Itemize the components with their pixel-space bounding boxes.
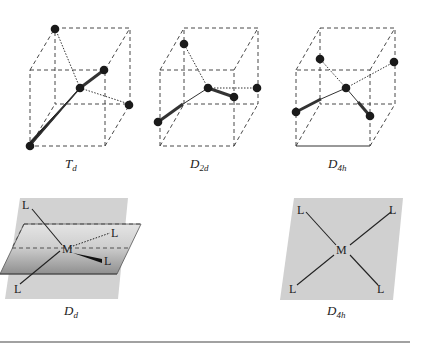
- atom: [292, 108, 301, 117]
- td-planes-diagram: L L L L M: [0, 198, 141, 299]
- bond-dotted: [55, 28, 80, 88]
- atom: [125, 101, 134, 110]
- metal-label: M: [336, 243, 347, 257]
- ligand-label: L: [389, 203, 396, 217]
- ligand-label: L: [111, 226, 118, 240]
- atom-center: [76, 84, 85, 93]
- d4h-atoms: [292, 55, 399, 121]
- bond-dotted: [184, 44, 208, 88]
- label-d4h-bottom: D4h: [326, 303, 346, 320]
- atom: [100, 66, 109, 75]
- atom: [26, 142, 35, 151]
- ligand-label: L: [104, 254, 111, 268]
- atom: [366, 112, 375, 121]
- atom: [154, 118, 163, 127]
- ligand-label: L: [289, 282, 296, 296]
- atom: [51, 25, 60, 34]
- bond-dotted: [320, 59, 346, 88]
- bond-thin: [183, 88, 208, 104]
- ligand-label: L: [377, 282, 384, 296]
- bond-dotted: [80, 88, 129, 104]
- atom: [390, 58, 399, 67]
- symmetry-figure: Td D2d: [0, 0, 422, 355]
- bond-wedge: [80, 70, 104, 88]
- ligand-label: L: [22, 198, 29, 212]
- atom-center: [342, 84, 351, 93]
- atom: [253, 84, 262, 93]
- ligand-label: L: [297, 203, 304, 217]
- label-td-bottom: Dd: [63, 303, 78, 320]
- atom-center: [204, 84, 213, 93]
- label-d4h-top: D4h: [327, 156, 347, 173]
- atom: [180, 40, 189, 49]
- ligand-label: L: [14, 282, 21, 296]
- atom: [230, 93, 239, 102]
- atom: [316, 55, 325, 64]
- metal-label: M: [62, 242, 73, 256]
- label-d2d: D2d: [189, 156, 209, 173]
- d4h-plane-diagram: L L L L M: [280, 198, 403, 300]
- label-td-top: Td: [65, 156, 77, 173]
